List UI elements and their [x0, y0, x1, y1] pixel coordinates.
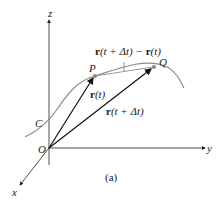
figure-caption: (a) — [105, 171, 118, 184]
y-axis-label: y — [206, 142, 212, 154]
point-q-label: Q — [159, 56, 167, 68]
curve-label: C — [35, 117, 43, 129]
difference-vector-label: r(t + Δt) − r(t) — [95, 45, 161, 58]
point-q — [152, 65, 156, 69]
diagram-canvas: z y x O C P Q r(t) r(t + Δt) r(t + Δt) −… — [0, 0, 223, 203]
x-axis-label: x — [11, 186, 17, 198]
z-axis-label: z — [47, 7, 53, 19]
origin-label: O — [38, 143, 46, 155]
vector-r-t-dt-label: r(t + Δt) — [106, 105, 144, 118]
vector-r-t-label: r(t) — [90, 88, 106, 101]
vector-r-t — [49, 78, 93, 148]
point-p — [93, 74, 97, 78]
vector-derivative-diagram: z y x O C P Q r(t) r(t + Δt) r(t + Δt) −… — [0, 0, 223, 203]
point-p-label: P — [88, 62, 96, 74]
